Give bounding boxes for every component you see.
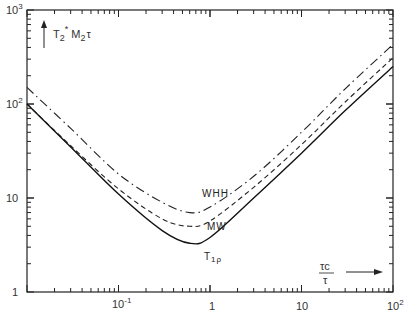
label-mw: MW [207,221,227,232]
xtick-10: 10 [296,300,308,312]
y-axis-label: T2*M2τ [41,20,91,48]
ytick-10: 10 [6,192,18,204]
arrowhead-icon [374,269,383,275]
ytick-1: 1 [12,286,18,298]
xtick-0.1: 10-1 [112,296,132,310]
curve-mw [27,58,393,227]
ytick-100: 102 [6,96,23,110]
svg-text:T2*M2τ: T2*M2τ [53,24,91,43]
label-whh: WHH [202,188,229,199]
plot-frame [27,10,393,292]
axis-ticks [27,10,393,292]
xtick-100: 102 [387,298,404,312]
svg-text:τc: τc [320,260,330,272]
label-t1rho: T1ρ [204,251,222,264]
log-log-chart: 1 10 102 103 10-1 1 10 102 T2*M2τ τc τ W… [0,0,406,319]
svg-text:τ: τ [323,274,328,286]
xtick-1: 1 [209,300,215,312]
ytick-1000: 103 [6,2,23,16]
x-axis-label: τc τ [319,260,383,286]
curve-t1rho [27,67,393,244]
arrowhead-icon [41,20,47,28]
